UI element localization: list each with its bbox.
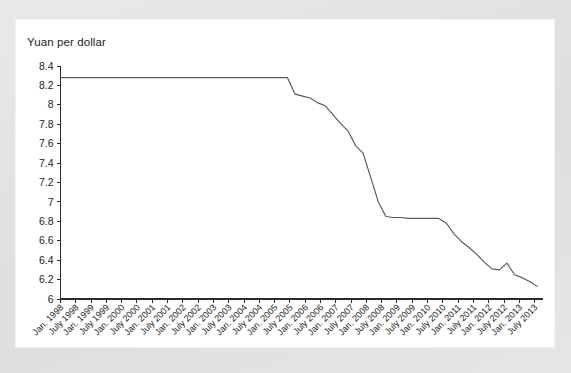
y-tick-label: 8: [48, 98, 54, 110]
y-tick-label: 6: [48, 293, 54, 305]
y-tick-label: 6.8: [39, 215, 54, 227]
y-tick-label: 8.4: [39, 60, 54, 72]
y-tick-label: 7.2: [39, 176, 54, 188]
y-tick-label: 6.4: [39, 254, 54, 266]
line-chart: 8.48.287.87.67.47.276.86.66.46.26Jan. 19…: [0, 0, 571, 373]
y-tick-label: 7.4: [39, 157, 54, 169]
y-tick-label: 7.6: [39, 137, 54, 149]
y-tick-label: 6.6: [39, 234, 54, 246]
data-series-line: [61, 78, 538, 287]
y-tick-label: 7: [48, 196, 54, 208]
y-tick-label: 7.8: [39, 118, 54, 130]
y-tick-label: 8.2: [39, 79, 54, 91]
y-tick-label: 6.2: [39, 273, 54, 285]
